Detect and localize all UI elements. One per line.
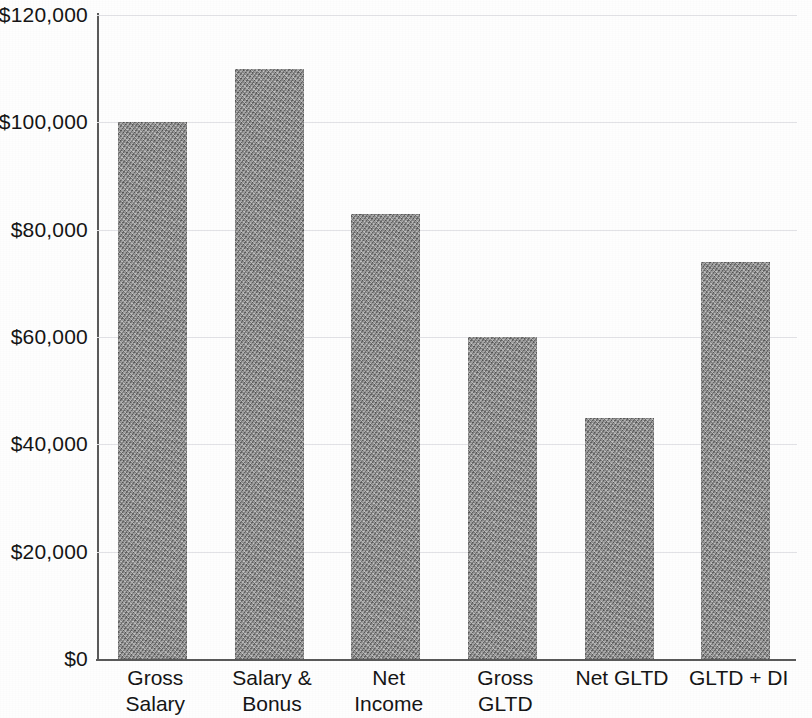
bar-slot <box>468 15 537 659</box>
y-axis-tick-label: $120,000 <box>0 3 88 27</box>
bar-slot <box>351 15 420 659</box>
bar <box>701 262 770 659</box>
bar <box>468 337 537 659</box>
x-axis-tick-label: Salary & Bonus <box>214 665 331 717</box>
bar <box>585 418 654 660</box>
bar-slot <box>118 15 187 659</box>
bar <box>351 214 420 659</box>
x-axis-tick-label: Gross Salary <box>97 665 214 717</box>
x-axis-line <box>96 659 796 661</box>
x-axis-tick-label: Net Income <box>330 665 447 717</box>
y-axis-tick-label: $100,000 <box>0 110 88 134</box>
plot-area <box>97 15 797 659</box>
bar-slot <box>585 15 654 659</box>
bar-chart: $0$20,000$40,000$60,000$80,000$100,000$1… <box>0 0 812 718</box>
bar <box>235 69 304 659</box>
bar-slot <box>701 15 770 659</box>
y-axis-tick-label: $0 <box>64 647 88 671</box>
y-axis-tick-label: $20,000 <box>11 540 88 564</box>
bar <box>118 122 187 659</box>
y-axis-tick-labels: $0$20,000$40,000$60,000$80,000$100,000$1… <box>0 15 88 659</box>
x-axis-tick-label: GLTD + DI <box>680 665 797 691</box>
x-axis-tick-labels: Gross SalarySalary & BonusNet IncomeGros… <box>97 665 797 718</box>
x-axis-tick-label: Net GLTD <box>564 665 681 691</box>
x-axis-tick-label: Gross GLTD <box>447 665 564 717</box>
y-axis-tick-label: $60,000 <box>11 325 88 349</box>
y-axis-tick-label: $80,000 <box>11 218 88 242</box>
y-axis-tick-label: $40,000 <box>11 432 88 456</box>
bar-slot <box>235 15 304 659</box>
bars-layer <box>97 15 797 659</box>
